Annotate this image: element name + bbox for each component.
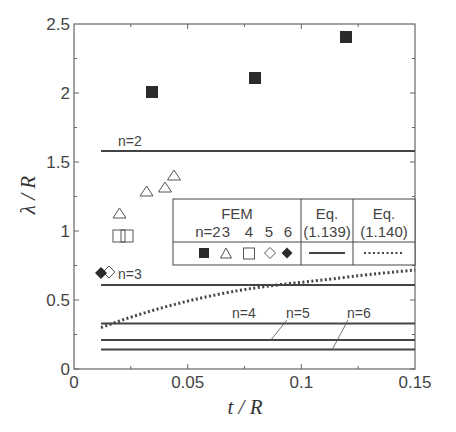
x-tick-label: 0 [69,373,78,392]
y-tick-label: 1.5 [46,153,70,172]
legend-eq1139-line2: (1.139) [303,223,351,240]
legend-eq1140-line2: (1.140) [360,223,408,240]
legend-fem-label-n3: 3 [222,223,230,240]
y-axis-title: λ / R [16,176,40,215]
annotation-n5: n=5 [286,305,310,321]
fem-n3-markers [113,170,181,218]
x-tick-label: 0.05 [171,373,204,392]
annotation-n6: n=6 [347,305,371,321]
fem-n6-marker [95,267,107,279]
x-tick-label: 0.1 [289,373,313,392]
legend-fem-label-n4: 4 [245,223,253,240]
chart: 0 0.5 1 1.5 2 2.5 0 0.05 0.1 0.15 t / R … [0,0,456,432]
legend-fem-label-n5: 5 [265,223,273,240]
legend-fem-label-n6: 6 [284,223,292,240]
x-tick-label: 0.15 [398,373,431,392]
legend-fem-label-n2: n=2 [195,223,220,240]
legend-marker-filled-square [199,248,209,258]
legend-eq1140-line1: Eq. [373,205,396,222]
y-tick-label: 1 [61,222,70,241]
y-tick-label: 2 [61,84,70,103]
annotation-n2: n=2 [118,133,142,149]
fem-n2-markers [146,31,352,98]
x-axis-title: t / R [228,395,263,419]
y-tick-label: 2.5 [46,15,70,34]
legend-eq1139-line1: Eq. [316,205,339,222]
y-tick-label: 0.5 [46,291,70,310]
legend: FEM n=2 3 4 5 6 Eq. (1.139) Eq. (1.140) [173,199,415,265]
annotation-n3: n=3 [118,266,142,282]
annotation-n4: n=4 [232,305,256,321]
legend-fem-header: FEM [221,205,253,222]
fem-n4-markers [113,230,133,242]
